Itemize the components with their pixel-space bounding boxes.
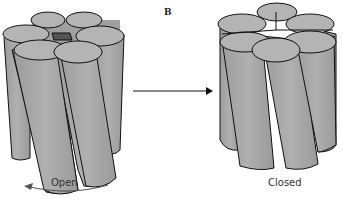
transition-arrow-icon [133, 87, 213, 95]
closed-channel-icon [218, 3, 336, 170]
open-channel-icon [3, 12, 124, 194]
open-label: Open [51, 177, 78, 188]
channel-diagram [0, 0, 343, 202]
closed-label: Closed [268, 177, 302, 188]
